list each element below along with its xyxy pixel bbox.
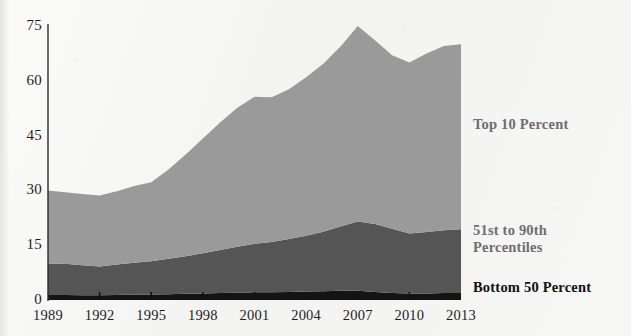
series-label-top-10-percent-text: Top 10 Percent	[473, 116, 568, 132]
series-label-51st-to-90th-line1: 51st to 90th	[473, 222, 547, 239]
y-axis-tick-label-30: 30	[12, 182, 42, 197]
series-label-bottom-50-percent: Bottom 50 Percent	[473, 279, 591, 296]
y-axis-tick-label-15: 15	[12, 237, 42, 252]
x-axis-tick-label-2013: 2013	[431, 308, 491, 323]
y-axis-tick-label-75: 75	[12, 18, 42, 33]
y-axis-tick-label-45: 45	[12, 128, 42, 143]
y-axis-tick-label-60: 60	[12, 73, 42, 88]
series-label-51st-to-90th-percentiles: 51st to 90th Percentiles	[473, 222, 547, 256]
y-axis-tick-label-0: 0	[12, 292, 42, 307]
series-label-top-10-percent: Top 10 Percent	[473, 116, 568, 133]
area-series-2	[48, 26, 461, 266]
area-series-group	[48, 26, 461, 300]
series-label-51st-to-90th-line2: Percentiles	[473, 239, 547, 256]
series-label-bottom-50-percent-text: Bottom 50 Percent	[473, 279, 591, 295]
chart-page: 01530456075 1989199219951998200120042007…	[0, 0, 631, 336]
